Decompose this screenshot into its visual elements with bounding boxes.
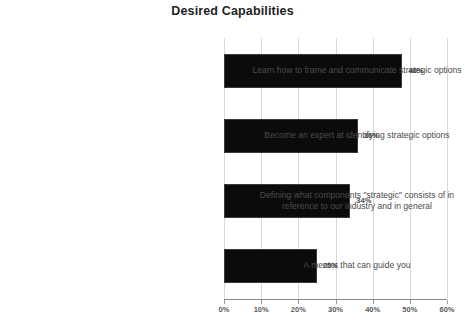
chart-title: Desired Capabilities: [0, 4, 465, 18]
tickmark: [224, 300, 225, 304]
x-tick-label: 50%: [395, 305, 425, 314]
x-tick-label: 10%: [246, 305, 276, 314]
tickmark: [261, 300, 262, 304]
tickmark: [410, 300, 411, 304]
bar-chart: Desired Capabilities 0%10%20%30%40%50%60…: [0, 0, 465, 333]
tickmark: [373, 300, 374, 304]
bar-value-label: 34%: [356, 196, 371, 205]
bar-value-label: 48%: [408, 66, 423, 75]
bar-value-label: 25%: [323, 261, 338, 270]
tickmark: [447, 300, 448, 304]
x-tick-label: 20%: [283, 305, 313, 314]
bar-value-label: 36%: [364, 131, 379, 140]
x-tick-label: 40%: [358, 305, 388, 314]
tickmark: [336, 300, 337, 304]
tickmark: [298, 300, 299, 304]
category-label: Become an expert at identifying strategi…: [249, 130, 465, 142]
category-label: Learn how to frame and communicate strat…: [249, 65, 465, 77]
x-tick-label: 60%: [432, 305, 462, 314]
x-tick-label: 30%: [321, 305, 351, 314]
category-label: A mentor that can guide you: [249, 260, 465, 272]
x-tick-label: 0%: [209, 305, 239, 314]
